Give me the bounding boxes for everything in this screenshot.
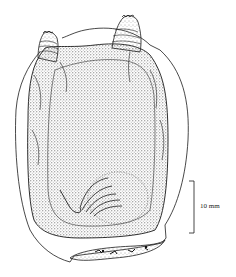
atrial-siphon bbox=[112, 15, 141, 52]
scale-bar bbox=[189, 181, 194, 233]
body bbox=[28, 44, 168, 238]
oral-siphon bbox=[38, 31, 58, 62]
scale-bar-label: 10 mm bbox=[200, 202, 220, 210]
basal-attachment bbox=[70, 240, 165, 260]
specimen-illustration bbox=[0, 0, 236, 277]
